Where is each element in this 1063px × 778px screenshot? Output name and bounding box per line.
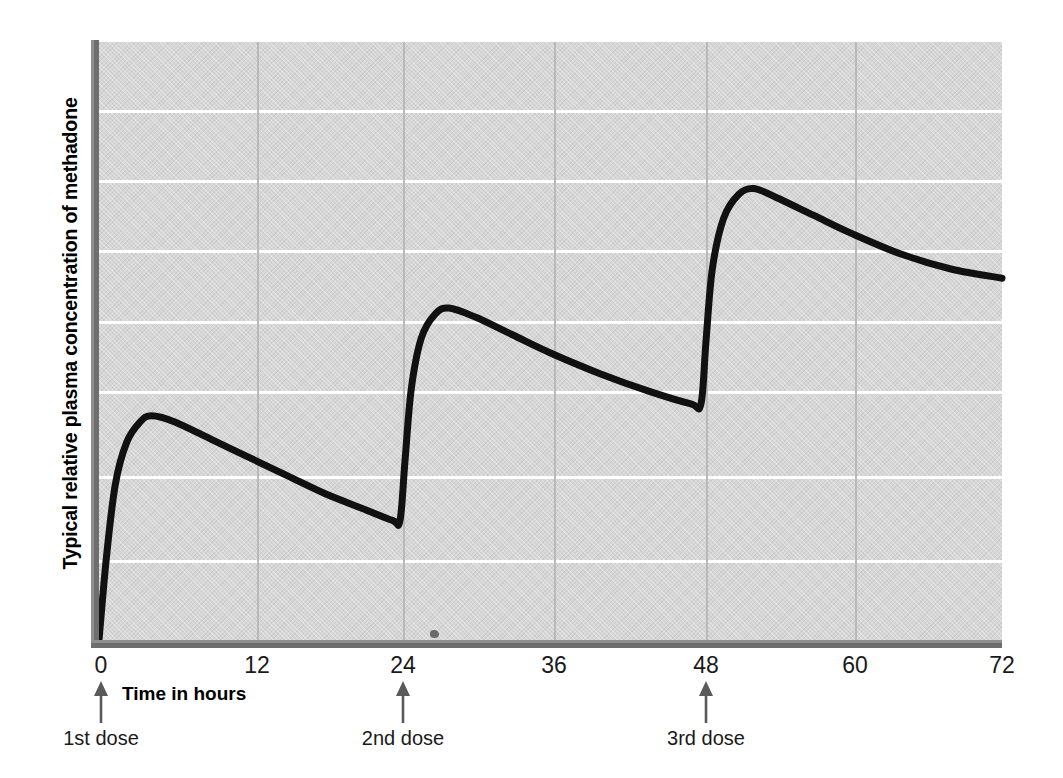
- y-axis-title: Typical relative plasma concentration of…: [59, 24, 82, 644]
- x-tick-label-60: 60: [815, 652, 895, 679]
- chart-figure: Typical relative plasma concentration of…: [0, 0, 1063, 778]
- concentration-curve-path: [99, 188, 1002, 640]
- x-axis-title: Time in hours: [122, 683, 246, 705]
- x-axis-spine-highlight: [91, 640, 1002, 643]
- dose-arrow-icon-3: [693, 679, 719, 723]
- x-tick-label-36: 36: [514, 652, 594, 679]
- print-speck-artifact: [430, 630, 439, 638]
- dose-arrow-icon-1: [88, 679, 114, 723]
- dose-label-2: 2nd dose: [303, 727, 503, 750]
- concentration-curve: [99, 42, 1002, 640]
- x-tick-label-0: 0: [61, 652, 141, 679]
- dose-arrow-icon-2: [390, 679, 416, 723]
- dose-label-1: 1st dose: [1, 727, 201, 750]
- dose-label-3: 3rd dose: [606, 727, 806, 750]
- y-axis-spine-highlight: [91, 40, 94, 646]
- x-tick-label-12: 12: [217, 652, 297, 679]
- plot-frame: [91, 40, 1002, 648]
- x-tick-label-72: 72: [962, 652, 1042, 679]
- x-tick-label-24: 24: [363, 652, 443, 679]
- x-tick-label-48: 48: [666, 652, 746, 679]
